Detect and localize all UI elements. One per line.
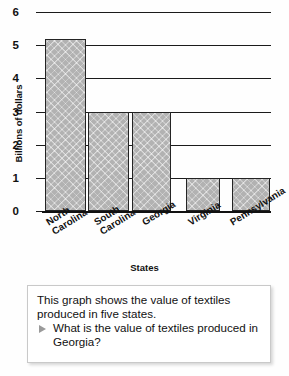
y-tick-mark	[36, 45, 42, 46]
caption-statement: This graph shows the value of textiles p…	[37, 293, 262, 320]
worksheet-page: Billions of dollars 6543210 NorthCarolin…	[0, 0, 289, 376]
y-tick-label: 4	[0, 72, 19, 84]
caption-box: This graph shows the value of textiles p…	[27, 285, 271, 363]
y-tick-mark	[36, 78, 42, 79]
y-tick-label: 3	[0, 106, 19, 118]
y-tick-mark	[36, 112, 42, 113]
y-tick-label: 0	[0, 205, 19, 217]
y-tick-label: 6	[0, 6, 19, 18]
gridline	[42, 12, 271, 13]
bar-north-carolina	[45, 39, 86, 211]
y-tick-mark	[36, 211, 42, 212]
y-tick-mark	[36, 145, 42, 146]
x-axis-title: States	[0, 262, 289, 273]
bar-georgia	[132, 112, 171, 212]
bar-chart-figure: Billions of dollars 6543210 NorthCarolin…	[0, 0, 289, 290]
caption-question-row: What is the value of textiles produced i…	[37, 321, 262, 348]
y-tick-label: 5	[0, 39, 19, 51]
triangle-right-icon	[39, 325, 46, 333]
y-tick-mark	[36, 12, 42, 13]
chart-plot-area: 6543210	[42, 12, 271, 211]
caption-question: What is the value of textiles produced i…	[53, 321, 262, 348]
y-tick-mark	[36, 178, 42, 179]
y-tick-label: 1	[0, 172, 19, 184]
y-tick-label: 2	[0, 139, 19, 151]
bar-south-carolina	[88, 112, 129, 212]
